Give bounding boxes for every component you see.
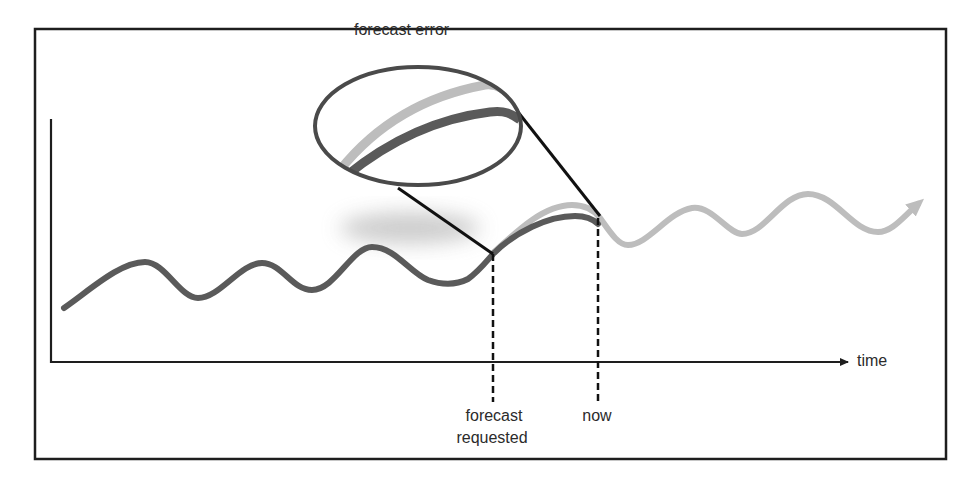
forecast-line (493, 194, 918, 253)
callout-shadow (340, 212, 480, 244)
forecast-error-label: forecast error (354, 20, 449, 40)
forecast-requested-label-line2: requested (456, 428, 527, 448)
time-axis-label: time (857, 351, 887, 371)
connector-line-right (518, 112, 600, 216)
forecast-requested-label-line1: forecast (466, 406, 523, 426)
now-label: now (582, 406, 611, 426)
